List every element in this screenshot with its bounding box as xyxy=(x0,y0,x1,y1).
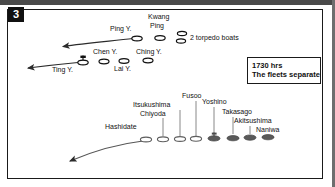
ship-label-torpedo-boats: 2 torpedo boats xyxy=(190,34,239,42)
ship-label-akitsushima: Akitsushima xyxy=(234,117,272,125)
ship-marker-chiyoda xyxy=(157,137,168,142)
ship-marker-torpedo-boat-1 xyxy=(177,31,186,35)
ship-marker-fusoo xyxy=(190,136,201,141)
ship-marker-yoshino xyxy=(208,133,220,141)
ship-label-chen-y: Chen Y. xyxy=(93,48,117,56)
ship-marker-ting-y xyxy=(78,56,88,65)
figure-page: 3 xyxy=(0,0,335,187)
ship-marker-naniwa xyxy=(262,135,274,140)
ship-label-ching-y: Ching Y. xyxy=(136,48,162,56)
callout-time: 1730 hrs xyxy=(252,61,316,70)
japanese-fleet-group xyxy=(140,133,274,142)
ship-marker-lai-y xyxy=(119,59,129,64)
ship-label-kwang: Kwang xyxy=(148,13,169,21)
callout-box: 1730 hrs The fleets separate xyxy=(247,57,321,84)
ship-marker-akitsushima xyxy=(244,135,256,140)
ship-marker-torpedo-boat-2 xyxy=(176,39,185,43)
diagram-vector-layer xyxy=(0,0,335,187)
ping-y-track-arrow xyxy=(63,39,133,47)
ship-label-takasago: Takasago xyxy=(222,108,252,116)
ship-label-lai-y: Lai Y. xyxy=(114,65,131,73)
ship-marker-hashidate xyxy=(140,137,151,142)
ship-marker-kwang-ping xyxy=(155,36,165,41)
ship-label-naniwa: Naniwa xyxy=(256,126,279,134)
ship-marker-ping-y xyxy=(132,36,142,41)
ship-label-ting-y: Ting Y. xyxy=(52,66,73,74)
callout-note: The fleets separate xyxy=(252,70,316,79)
ship-marker-chen-y xyxy=(99,59,109,64)
ship-label-fusoo: Fusoo xyxy=(182,92,201,100)
chinese-northern-group xyxy=(132,31,187,43)
ship-marker-ching-y xyxy=(143,58,153,63)
ship-label-itsukushima: Itsukushima xyxy=(133,101,170,109)
chinese-southern-group xyxy=(78,56,153,65)
ship-label-ping: Ping xyxy=(150,22,164,30)
ship-label-yoshino: Yoshino xyxy=(202,98,227,106)
ship-marker-itsukushima xyxy=(174,137,185,142)
ship-label-hashidate: Hashidate xyxy=(105,123,137,131)
ship-marker-takasago xyxy=(227,136,239,141)
ship-label-chiyoda: Chiyoda xyxy=(140,110,166,118)
japanese-fleet-track-arrow xyxy=(70,141,143,161)
ship-label-ping-y: Ping Y. xyxy=(110,25,132,33)
